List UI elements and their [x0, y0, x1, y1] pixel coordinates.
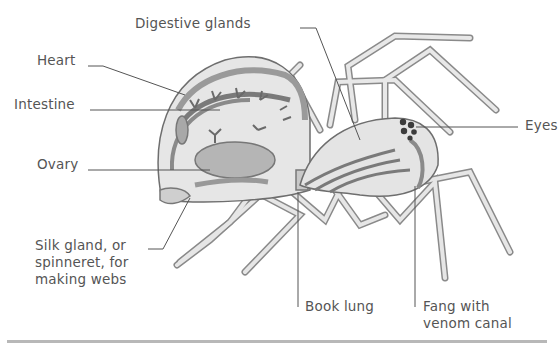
label-heart: Heart: [37, 52, 76, 69]
label-eyes: Eyes: [525, 117, 558, 134]
label-book-lung: Book lung: [305, 298, 374, 315]
label-digestive-glands: Digestive glands: [135, 15, 251, 32]
label-silk-gland: Silk gland, or spinneret, for making web…: [35, 237, 150, 288]
abdomen: [158, 57, 310, 204]
label-ovary: Ovary: [37, 156, 78, 173]
label-intestine: Intestine: [14, 96, 75, 113]
label-fang: Fang with venom canal: [423, 298, 533, 332]
bottom-divider: [7, 340, 547, 343]
